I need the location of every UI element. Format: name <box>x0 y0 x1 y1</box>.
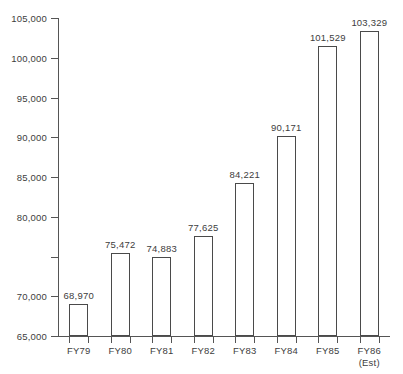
y-tick-mark <box>51 58 59 59</box>
bar-value-label: 90,171 <box>271 122 301 133</box>
bar-value-label: 77,625 <box>188 222 218 233</box>
x-tick-mark <box>213 336 214 343</box>
bar <box>69 304 88 336</box>
bar <box>318 46 337 336</box>
x-category-label: FY79 <box>67 345 91 356</box>
y-tick-label: 70,000 <box>17 291 47 302</box>
y-tick-label: 95,000 <box>17 92 47 103</box>
bar-value-label: 68,970 <box>64 290 94 301</box>
x-category-label: FY86(Est) <box>357 345 381 368</box>
x-tick-mark <box>360 336 361 343</box>
x-tick-mark <box>171 336 172 343</box>
x-axis-line <box>58 336 390 337</box>
x-category-label: FY80 <box>108 345 132 356</box>
x-tick-mark <box>69 336 70 343</box>
bar-value-label: 103,329 <box>351 17 387 28</box>
bar <box>360 31 379 336</box>
bar-value-label: 84,221 <box>230 169 260 180</box>
y-tick-mark <box>51 217 59 218</box>
bar <box>194 236 213 336</box>
y-tick-label: 65,000 <box>17 331 47 342</box>
x-tick-mark <box>235 336 236 343</box>
y-tick-label: 90,000 <box>17 132 47 143</box>
x-tick-mark <box>152 336 153 343</box>
bar <box>152 257 171 336</box>
bar-value-label: 74,883 <box>147 243 177 254</box>
y-tick-mark <box>51 336 59 337</box>
y-tick-label: 100,000 <box>11 52 47 63</box>
bar <box>111 253 130 336</box>
bar-value-label: 75,472 <box>105 239 135 250</box>
x-category-label: FY84 <box>274 345 298 356</box>
y-tick-mark <box>51 296 59 297</box>
bar-chart: 65,00070,00080,00085,00090,00095,000100,… <box>0 0 403 374</box>
x-tick-mark <box>111 336 112 343</box>
x-tick-mark <box>318 336 319 343</box>
x-tick-mark <box>88 336 89 343</box>
bar <box>277 136 296 336</box>
y-tick-mark <box>51 257 59 258</box>
y-tick-mark <box>51 137 59 138</box>
x-tick-mark <box>296 336 297 343</box>
y-tick-label: 85,000 <box>17 172 47 183</box>
y-tick-mark <box>51 98 59 99</box>
x-tick-mark <box>130 336 131 343</box>
y-tick-mark <box>51 18 59 19</box>
y-tick-mark <box>51 177 59 178</box>
x-tick-mark <box>379 336 380 343</box>
bar <box>235 183 254 336</box>
x-tick-mark <box>337 336 338 343</box>
x-category-label: FY82 <box>191 345 215 356</box>
y-tick-label: 105,000 <box>11 13 47 24</box>
y-tick-label: 80,000 <box>17 211 47 222</box>
x-tick-mark <box>194 336 195 343</box>
x-category-label: FY85 <box>316 345 340 356</box>
x-category-label: FY83 <box>233 345 257 356</box>
x-category-sublabel: (Est) <box>357 357 381 368</box>
bar-value-label: 101,529 <box>310 32 346 43</box>
x-tick-mark <box>277 336 278 343</box>
x-tick-mark <box>254 336 255 343</box>
x-category-label: FY81 <box>150 345 174 356</box>
